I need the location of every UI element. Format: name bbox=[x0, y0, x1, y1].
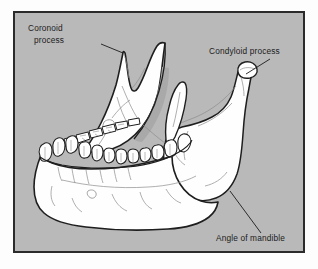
tooth-near-7 bbox=[116, 149, 127, 164]
label-angle-of-mandible: Angle of mandible bbox=[216, 233, 285, 243]
condyloid-process-head bbox=[238, 62, 257, 78]
tooth-near-6 bbox=[104, 148, 115, 163]
label-condyloid-process: Condyloid process bbox=[209, 46, 280, 56]
tooth-near-3 bbox=[66, 136, 78, 153]
mandible-diagram: Coronoid process Condyloid process Angle… bbox=[0, 0, 318, 269]
figure-container: Coronoid process Condyloid process Angle… bbox=[0, 0, 318, 269]
tooth-near-9 bbox=[140, 148, 151, 162]
tooth-near-2 bbox=[53, 138, 65, 156]
label-coronoid-process-line1: Coronoid bbox=[28, 23, 63, 33]
tooth-near-10 bbox=[152, 145, 164, 160]
label-coronoid-process-line2: process bbox=[34, 35, 64, 45]
tooth-near-5 bbox=[92, 145, 103, 161]
tooth-far-6 bbox=[128, 118, 140, 126]
tooth-near-8 bbox=[128, 149, 139, 163]
tooth-near-4 bbox=[79, 142, 91, 158]
